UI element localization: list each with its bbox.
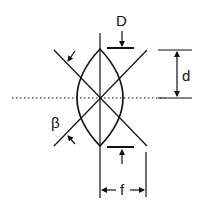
lens-diagram-svg: D d β f bbox=[0, 0, 202, 206]
label-f: f bbox=[120, 181, 125, 198]
label-D: D bbox=[116, 12, 127, 29]
beta-arrow-top bbox=[68, 51, 75, 61]
lens-diagram: D d β f bbox=[0, 0, 202, 206]
label-d: d bbox=[182, 67, 190, 84]
label-beta: β bbox=[51, 114, 60, 131]
beta-arrow-bottom bbox=[68, 136, 75, 144]
